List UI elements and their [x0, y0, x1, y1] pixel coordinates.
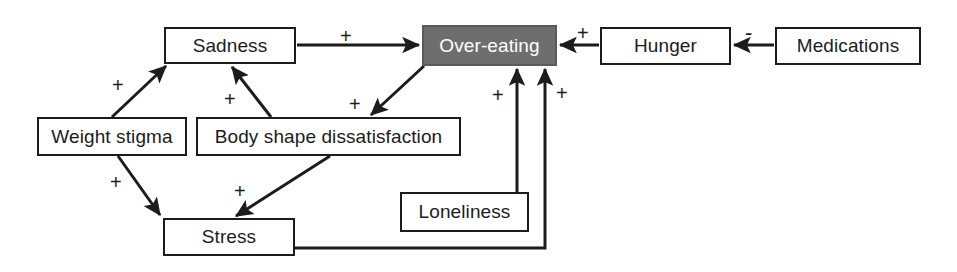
- node-weight-stigma[interactable]: Weight stigma: [37, 117, 187, 156]
- edge-sign-overeating-to-bodyshape: +: [349, 94, 361, 114]
- edge-overeating-to-bodyshape: [371, 66, 424, 115]
- edge-sign-hunger-to-overeating: +: [577, 23, 589, 43]
- causal-diagram: Sadness Over-eating Hunger Medications W…: [0, 0, 957, 272]
- node-over-eating[interactable]: Over-eating: [422, 25, 557, 66]
- node-label: Weight stigma: [51, 126, 172, 148]
- edge-sign-sadness-to-overeating: +: [340, 26, 352, 46]
- edge-weight-to-stress: [118, 156, 160, 215]
- node-sadness[interactable]: Sadness: [164, 27, 296, 64]
- edge-sign-bodyshape-to-sadness: +: [224, 89, 236, 109]
- edge-bodyshape-to-sadness: [232, 67, 271, 117]
- node-label: Hunger: [634, 35, 697, 57]
- node-loneliness[interactable]: Loneliness: [400, 192, 529, 232]
- node-label: Body shape dissatisfaction: [215, 126, 443, 148]
- node-label: Medications: [797, 35, 899, 57]
- node-body-shape-dissatisfaction[interactable]: Body shape dissatisfaction: [196, 117, 461, 156]
- node-stress[interactable]: Stress: [163, 218, 295, 256]
- edge-sign-bodyshape-to-stress: +: [234, 181, 246, 201]
- node-label: Stress: [202, 226, 256, 248]
- edge-sign-weight-to-stress: +: [110, 172, 122, 192]
- edge-sign-weight-to-sadness: +: [112, 75, 124, 95]
- node-hunger[interactable]: Hunger: [600, 27, 731, 65]
- node-label: Loneliness: [419, 201, 511, 223]
- node-label: Sadness: [193, 35, 268, 57]
- edge-sign-stress-to-overeating: +: [556, 83, 568, 103]
- edge-bodyshape-to-stress: [236, 156, 330, 216]
- edge-sign-loneliness-to-overeating: +: [492, 85, 504, 105]
- node-label: Over-eating: [439, 35, 539, 57]
- edge-sign-medications-to-hunger: -: [745, 22, 752, 44]
- node-medications[interactable]: Medications: [775, 27, 921, 65]
